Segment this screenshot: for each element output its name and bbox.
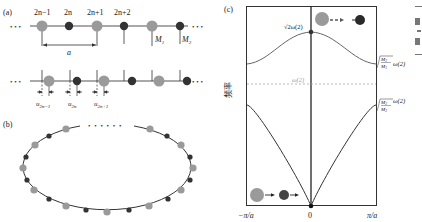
svg-text:• • •: • • • — [192, 78, 203, 86]
optical-edge-label: M2 M1 ω(2) — [377, 56, 405, 70]
dark-atom — [120, 22, 128, 30]
panel-b: (b) • • • • • • — [3, 120, 197, 216]
origin-point — [309, 204, 314, 209]
lattice-constant-label: a — [67, 48, 71, 57]
dark-atom — [176, 22, 184, 30]
site-label-2n-1: 2n−1 — [34, 8, 51, 17]
x-tick-neg-pi-over-a: −π/a — [238, 211, 254, 220]
panel-b-label: (b) — [3, 120, 13, 129]
x-tick-zero: 0 — [308, 211, 312, 220]
displacement-label-u2n: u2n — [68, 100, 77, 109]
mass-label-m2: M2 — [181, 35, 192, 45]
ellipsis-left: • • • — [10, 23, 21, 31]
displacement-label-u2n+1: u2n+1 — [94, 100, 108, 109]
ring-ellipsis: • • • • • • — [88, 122, 122, 130]
light-atom — [37, 21, 48, 32]
site-label-2n: 2n — [64, 8, 72, 17]
site-label-2n+1: 2n+1 — [87, 8, 104, 17]
figure: (a) 2n−1 2n 2n+1 2n+2 • • • • • • a M1 M… — [0, 0, 422, 222]
panel-c-dispersion-chart: (c) ω(2) √2ω(2) 频率 M2 M1 ω(2) M2 M2 ω(2) — [223, 5, 405, 220]
svg-text:• • •: • • • — [10, 78, 21, 86]
svg-text:ω(2): ω(2) — [393, 97, 405, 105]
omega2-label: ω(2) — [292, 76, 304, 84]
svg-text:ω(2): ω(2) — [393, 60, 405, 68]
dark-atom — [65, 22, 73, 30]
displacement-label-u2n-1: u2n−1 — [36, 100, 50, 109]
light-atom — [147, 21, 158, 32]
light-atom — [92, 21, 103, 32]
mass-label-m1: M1 — [154, 35, 164, 45]
panel-a-label: (a) — [3, 8, 12, 17]
peak-point — [309, 30, 314, 35]
cropped-text-fragments — [415, 6, 422, 55]
x-tick-pi-over-a: π/a — [367, 211, 377, 220]
acoustic-mode-icon — [250, 188, 299, 202]
y-axis-label: 频率 — [223, 82, 233, 98]
optical-mode-icon — [315, 12, 365, 26]
svg-text:M2: M2 — [380, 107, 387, 113]
svg-text:M1: M1 — [380, 64, 387, 70]
svg-text:M2: M2 — [380, 57, 387, 63]
peak-label: √2ω(2) — [284, 23, 303, 31]
panel-c-label: (c) — [224, 5, 233, 14]
panel-a: (a) 2n−1 2n 2n+1 2n+2 • • • • • • a M1 M… — [3, 8, 203, 109]
ellipsis-right: • • • — [192, 23, 203, 31]
site-label-2n+2: 2n+2 — [114, 8, 131, 17]
acoustic-edge-label: M2 M2 ω(2) — [377, 97, 405, 113]
svg-text:M2: M2 — [380, 100, 387, 106]
